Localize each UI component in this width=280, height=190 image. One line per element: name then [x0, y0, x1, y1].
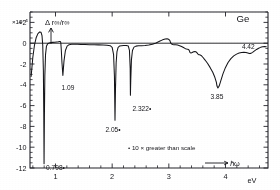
scale-footnote: • 10 × greater than scale — [128, 144, 196, 151]
peak-label: 3.85 — [211, 93, 224, 100]
x-tick-label: 2 — [110, 172, 114, 181]
y-tick-label: -10 — [16, 143, 26, 152]
peak-label: 0.798• — [46, 164, 66, 171]
y-tick-label: -6 — [20, 101, 26, 110]
y-tick-label: -2 — [20, 60, 26, 69]
spectrum-plot: +20-2-4-6-8-10-121234 0.798•1.092.05•2.3… — [0, 0, 280, 190]
y-tick-label: -12 — [16, 164, 26, 173]
x-tick-label: 1 — [53, 172, 57, 181]
y-tick-label: -8 — [20, 122, 26, 131]
peak-label: 2.322• — [132, 105, 152, 112]
peak-label: 1.09 — [62, 84, 75, 91]
peak-label: 2.05• — [105, 126, 121, 133]
y-axis-label: Δ r∞/r∞ — [45, 18, 70, 27]
x-tick-label: 3 — [167, 172, 171, 181]
y-tick-label: -4 — [20, 80, 26, 89]
y-axis-exponent-label: ×10⁻⁵ — [12, 18, 28, 25]
x-tick-label: 4 — [223, 172, 227, 181]
y-tick-label: 0 — [23, 39, 27, 48]
material-label: Ge — [237, 13, 250, 24]
energy-arrow-label: ℏω — [230, 159, 240, 168]
peak-label: 4.42 — [242, 43, 255, 50]
x-axis-unit-label: eV — [247, 176, 256, 185]
figure-container: +20-2-4-6-8-10-121234 0.798•1.092.05•2.3… — [0, 0, 280, 190]
